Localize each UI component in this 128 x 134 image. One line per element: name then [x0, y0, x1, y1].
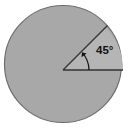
- geometry-figure: 45°: [0, 0, 128, 134]
- figure-canvas: 45°: [0, 0, 128, 134]
- angle-measure-label: 45°: [96, 44, 114, 56]
